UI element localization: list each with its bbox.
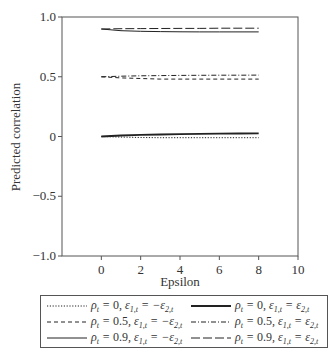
x-tick-label: 8 (255, 262, 262, 277)
legend-swatch (191, 302, 231, 310)
legend-item: ρt = 0.9, ε1,t = −ε2,t (47, 330, 182, 346)
x-tick-label: 6 (216, 262, 223, 277)
line-chart: 1.00.50−0.5−1.0 0246810 Epsilon Predicte… (0, 0, 335, 290)
series-lines (101, 28, 258, 138)
legend-label: ρt = 0, ε1,t = −ε2,t (91, 298, 173, 314)
legend-item: ρt = 0, ε1,t = −ε2,t (47, 298, 173, 314)
y-axis-label: Predicted correlation (8, 82, 23, 191)
series-line-dash-dot (101, 75, 258, 77)
y-tick-label: 0.5 (40, 69, 56, 84)
legend-label: ρt = 0, ε1,t = ε2,t (235, 298, 309, 314)
y-tick-label: −0.5 (32, 188, 56, 203)
series-line-solid-thick (101, 133, 258, 136)
legend-item: ρt = 0.5, ε1,t = ε2,t (191, 314, 318, 330)
legend-item: ρt = 0.9, ε1,t = ε2,t (191, 330, 318, 346)
legend-swatch (191, 318, 231, 326)
x-axis: 0246810 (98, 256, 304, 277)
legend-label: ρt = 0.5, ε1,t = ε2,t (235, 314, 318, 330)
chart-legend: ρt = 0, ε1,t = −ε2,tρt = 0.5, ε1,t = −ε2… (40, 295, 328, 348)
legend-item: ρt = 0.5, ε1,t = −ε2,t (47, 314, 182, 330)
series-line-dashed (101, 77, 258, 79)
x-tick-label: 10 (292, 262, 305, 277)
plot-frame (62, 17, 298, 256)
plot-border (62, 17, 298, 256)
y-tick-label: 1.0 (40, 9, 56, 24)
legend-swatch (47, 302, 87, 310)
x-tick-label: 2 (137, 262, 144, 277)
legend-swatch (47, 334, 87, 342)
legend-label: ρt = 0.9, ε1,t = ε2,t (235, 330, 318, 346)
legend-swatch (191, 334, 231, 342)
legend-item: ρt = 0, ε1,t = ε2,t (191, 298, 309, 314)
series-line-solid-thin (101, 29, 258, 32)
legend-label: ρt = 0.5, ε1,t = −ε2,t (91, 314, 182, 330)
series-line-dotted (101, 137, 258, 138)
x-axis-label: Epsilon (160, 274, 200, 289)
y-axis: 1.00.50−0.5−1.0 (32, 9, 62, 263)
y-tick-label: 0 (50, 129, 57, 144)
legend-label: ρt = 0.9, ε1,t = −ε2,t (91, 330, 182, 346)
y-tick-label: −1.0 (32, 248, 56, 263)
series-line-long-dash (101, 28, 258, 29)
legend-swatch (47, 318, 87, 326)
x-tick-label: 0 (98, 262, 105, 277)
